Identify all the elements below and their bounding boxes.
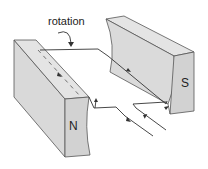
- arrow-icon: [164, 106, 169, 110]
- north-magnet: [14, 40, 90, 157]
- arrow-icon: [94, 98, 98, 102]
- motor-diagram: [0, 0, 208, 169]
- south-pole-label: S: [181, 76, 189, 90]
- rotation-label: rotation: [48, 15, 85, 27]
- rotation-arrow-icon: [58, 32, 74, 47]
- north-pole-label: N: [69, 119, 78, 133]
